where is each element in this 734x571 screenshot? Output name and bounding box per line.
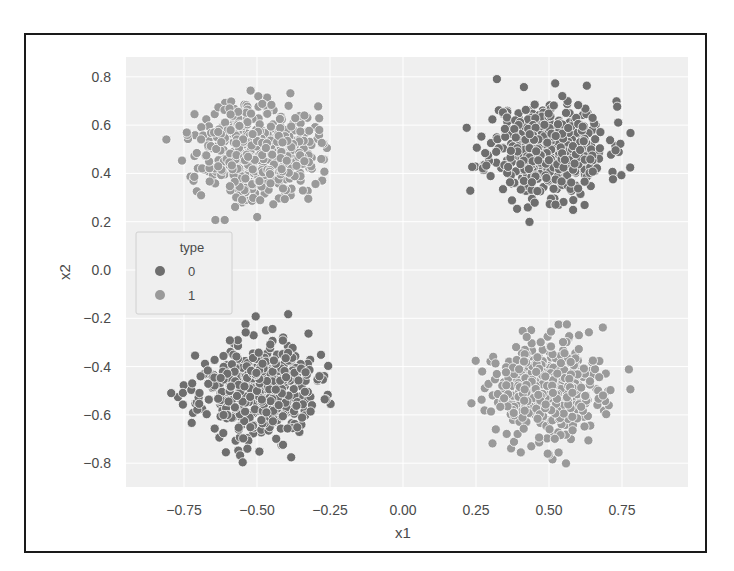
data-point-type-0 bbox=[316, 350, 325, 359]
data-point-type-0 bbox=[315, 372, 324, 381]
data-point-type-1 bbox=[256, 196, 265, 205]
data-point-type-1 bbox=[265, 170, 274, 179]
data-point-type-0 bbox=[252, 368, 261, 377]
data-point-type-0 bbox=[606, 136, 615, 145]
data-point-type-1 bbox=[520, 396, 529, 405]
data-point-type-0 bbox=[195, 388, 204, 397]
data-point-type-0 bbox=[511, 133, 520, 142]
data-point-type-0 bbox=[596, 128, 605, 137]
data-point-type-1 bbox=[554, 320, 563, 329]
data-point-type-1 bbox=[235, 121, 244, 130]
data-point-type-1 bbox=[500, 394, 509, 403]
data-point-type-0 bbox=[241, 407, 250, 416]
data-point-type-1 bbox=[305, 126, 314, 135]
data-point-type-1 bbox=[471, 356, 480, 365]
y-axis-label: x2 bbox=[56, 264, 73, 280]
data-point-type-1 bbox=[190, 110, 199, 119]
data-point-type-0 bbox=[282, 373, 291, 382]
data-point-type-0 bbox=[178, 400, 187, 409]
data-point-type-0 bbox=[549, 101, 558, 110]
data-point-type-0 bbox=[224, 397, 233, 406]
data-point-type-0 bbox=[268, 324, 277, 333]
data-point-type-1 bbox=[568, 412, 577, 421]
y-tick-label: 0.8 bbox=[92, 69, 112, 85]
data-point-type-1 bbox=[205, 177, 214, 186]
data-point-type-1 bbox=[202, 151, 211, 160]
data-point-type-0 bbox=[608, 175, 617, 184]
data-point-type-0 bbox=[221, 448, 230, 457]
data-point-type-1 bbox=[320, 167, 329, 176]
data-point-type-0 bbox=[549, 184, 558, 193]
data-point-type-1 bbox=[311, 179, 320, 188]
data-point-type-1 bbox=[286, 89, 295, 98]
data-point-type-1 bbox=[534, 390, 543, 399]
data-point-type-1 bbox=[214, 162, 223, 171]
scatter-chart: −0.75−0.50−0.250.000.250.500.75 0.80.60.… bbox=[0, 0, 734, 571]
data-point-type-1 bbox=[226, 110, 235, 119]
data-point-type-0 bbox=[301, 368, 310, 377]
data-point-type-0 bbox=[580, 200, 589, 209]
data-point-type-0 bbox=[580, 177, 589, 186]
data-point-type-1 bbox=[232, 139, 241, 148]
data-point-type-1 bbox=[197, 123, 206, 132]
data-point-type-0 bbox=[588, 167, 597, 176]
data-point-type-0 bbox=[167, 389, 176, 398]
data-point-type-1 bbox=[263, 109, 272, 118]
legend-label-0: 0 bbox=[188, 264, 195, 279]
data-point-type-1 bbox=[253, 212, 262, 221]
data-point-type-0 bbox=[595, 144, 604, 153]
data-point-type-0 bbox=[292, 401, 301, 410]
data-point-type-0 bbox=[246, 392, 255, 401]
data-point-type-0 bbox=[468, 162, 477, 171]
data-point-type-1 bbox=[519, 424, 528, 433]
legend-marker-1 bbox=[155, 290, 165, 300]
data-point-type-0 bbox=[557, 177, 566, 186]
data-point-type-1 bbox=[217, 138, 226, 147]
data-point-type-0 bbox=[187, 418, 196, 427]
data-point-type-1 bbox=[584, 436, 593, 445]
data-point-type-1 bbox=[546, 327, 555, 336]
data-point-type-1 bbox=[584, 328, 593, 337]
x-tick-label: 0.00 bbox=[389, 502, 416, 518]
data-point-type-0 bbox=[234, 423, 243, 432]
data-point-type-0 bbox=[178, 388, 187, 397]
data-point-type-0 bbox=[551, 131, 560, 140]
data-point-type-1 bbox=[535, 433, 544, 442]
data-point-type-0 bbox=[521, 105, 530, 114]
data-point-type-0 bbox=[283, 424, 292, 433]
data-point-type-1 bbox=[566, 357, 575, 366]
data-point-type-0 bbox=[613, 102, 622, 111]
x-tick-label: 0.75 bbox=[608, 502, 635, 518]
data-point-type-1 bbox=[304, 194, 313, 203]
data-point-type-0 bbox=[542, 173, 551, 182]
data-point-type-0 bbox=[219, 410, 228, 419]
data-point-type-0 bbox=[534, 156, 543, 165]
data-point-type-1 bbox=[266, 122, 275, 131]
data-point-type-0 bbox=[481, 149, 490, 158]
data-point-type-0 bbox=[504, 162, 513, 171]
data-point-type-1 bbox=[574, 345, 583, 354]
data-point-type-1 bbox=[546, 342, 555, 351]
data-point-type-0 bbox=[204, 395, 213, 404]
data-point-type-1 bbox=[511, 343, 520, 352]
y-tick-label: 0.0 bbox=[92, 262, 112, 278]
data-point-type-0 bbox=[510, 125, 519, 134]
data-point-type-1 bbox=[467, 399, 476, 408]
data-point-type-1 bbox=[162, 135, 171, 144]
data-point-type-1 bbox=[556, 359, 565, 368]
data-point-type-1 bbox=[519, 357, 528, 366]
data-point-type-0 bbox=[241, 328, 250, 337]
data-point-type-0 bbox=[626, 128, 635, 137]
data-point-type-1 bbox=[550, 434, 559, 443]
data-point-type-1 bbox=[268, 150, 277, 159]
data-point-type-0 bbox=[570, 159, 579, 168]
data-point-type-0 bbox=[306, 407, 315, 416]
data-point-type-1 bbox=[258, 99, 267, 108]
data-point-type-1 bbox=[280, 195, 289, 204]
data-point-type-1 bbox=[284, 101, 293, 110]
data-point-type-0 bbox=[258, 359, 267, 368]
data-point-type-0 bbox=[551, 79, 560, 88]
data-point-type-1 bbox=[562, 320, 571, 329]
data-point-type-1 bbox=[545, 425, 554, 434]
data-point-type-0 bbox=[257, 416, 266, 425]
